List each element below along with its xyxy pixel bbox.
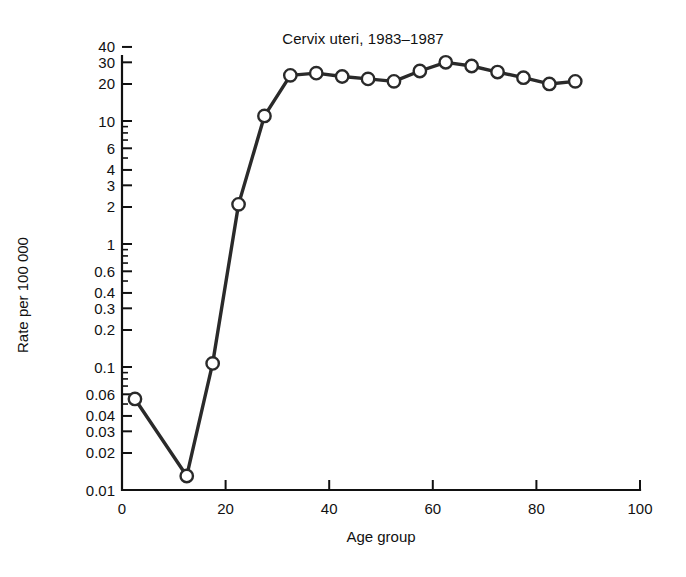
data-point-markers bbox=[129, 56, 582, 482]
y-tick-label: 6 bbox=[107, 140, 115, 157]
y-tick-label: 0.3 bbox=[94, 300, 115, 317]
data-point-marker bbox=[491, 66, 503, 78]
data-point-marker bbox=[206, 357, 218, 369]
x-tick-label: 20 bbox=[217, 500, 234, 517]
data-point-marker bbox=[440, 56, 452, 68]
y-tick-label: 30 bbox=[98, 54, 115, 71]
x-axis: 020406080100 bbox=[118, 480, 653, 517]
x-tick-label: 0 bbox=[118, 500, 126, 517]
y-tick-label: 20 bbox=[98, 75, 115, 92]
x-tick-label: 100 bbox=[627, 500, 652, 517]
data-point-marker bbox=[181, 470, 193, 482]
y-tick-label: 0.03 bbox=[86, 423, 115, 440]
data-point-marker bbox=[258, 110, 270, 122]
y-tick-label: 0.06 bbox=[86, 386, 115, 403]
y-tick-label: 0.02 bbox=[86, 444, 115, 461]
y-tick-label: 0.4 bbox=[94, 284, 115, 301]
data-point-marker bbox=[388, 75, 400, 87]
y-tick-label: 0.01 bbox=[86, 482, 115, 499]
data-point-marker bbox=[232, 198, 244, 210]
y-tick-label: 4 bbox=[107, 161, 115, 178]
data-point-marker bbox=[362, 73, 374, 85]
y-tick-label: 0.1 bbox=[94, 359, 115, 376]
data-series-line bbox=[135, 62, 575, 476]
data-point-marker bbox=[284, 69, 296, 81]
x-tick-label: 60 bbox=[424, 500, 441, 517]
data-point-marker bbox=[543, 78, 555, 90]
data-point-marker bbox=[129, 393, 141, 405]
y-tick-label: 1 bbox=[107, 236, 115, 253]
data-point-marker bbox=[569, 75, 581, 87]
y-axis: 0.010.020.030.040.060.10.20.30.40.612346… bbox=[86, 38, 132, 498]
data-point-marker bbox=[517, 71, 529, 83]
y-tick-label: 0.2 bbox=[94, 321, 115, 338]
y-tick-label: 0.6 bbox=[94, 263, 115, 280]
x-tick-label: 80 bbox=[528, 500, 545, 517]
y-tick-label: 10 bbox=[98, 113, 115, 130]
data-point-marker bbox=[414, 65, 426, 77]
chart-figure: Cervix uteri, 1983–1987 Rate per 100 000… bbox=[0, 0, 686, 577]
y-tick-label: 40 bbox=[98, 38, 115, 55]
y-tick-label: 0.04 bbox=[86, 407, 115, 424]
x-tick-label: 40 bbox=[321, 500, 338, 517]
data-point-marker bbox=[336, 70, 348, 82]
y-tick-label: 2 bbox=[107, 198, 115, 215]
y-tick-label: 3 bbox=[107, 177, 115, 194]
data-point-marker bbox=[465, 60, 477, 72]
data-point-marker bbox=[310, 67, 322, 79]
plot-area: 0.010.020.030.040.060.10.20.30.40.612346… bbox=[0, 0, 686, 577]
